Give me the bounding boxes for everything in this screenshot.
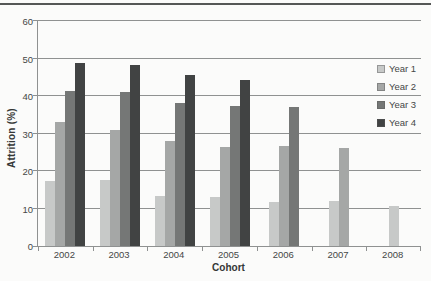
y-tick-label-30: 30 <box>3 129 33 140</box>
y-tick-label-60: 60 <box>3 16 33 27</box>
x-tick-label-2003: 2003 <box>92 249 147 260</box>
legend: Year 1Year 2Year 3Year 4 <box>377 63 416 135</box>
bar-2004-year-2 <box>165 141 175 246</box>
legend-item-year-1: Year 1 <box>377 63 416 74</box>
legend-item-year-3: Year 3 <box>377 99 416 110</box>
bar-2007-year-1 <box>329 201 339 246</box>
bar-group-2004 <box>147 21 202 246</box>
y-tick-label-20: 20 <box>3 166 33 177</box>
bar-2008-year-1 <box>389 206 399 247</box>
bar-2002-year-4 <box>75 63 85 246</box>
x-tick-label-2006: 2006 <box>256 249 311 260</box>
y-tick-label-40: 40 <box>3 91 33 102</box>
bar-group-2003 <box>93 21 148 246</box>
bar-2004-year-3 <box>175 103 185 246</box>
bar-2006-year-3 <box>289 107 299 246</box>
legend-item-year-4: Year 4 <box>377 117 416 128</box>
bar-2002-year-1 <box>45 181 55 246</box>
legend-swatch-icon <box>377 119 385 127</box>
x-tick-label-2008: 2008 <box>365 249 420 260</box>
legend-label: Year 3 <box>389 99 416 110</box>
plot-area: 0102030405060 <box>37 21 421 247</box>
bar-group-2007 <box>312 21 367 246</box>
x-tick-labels: 2002200320042005200620072008 <box>37 249 420 260</box>
bar-2004-year-1 <box>155 196 165 246</box>
legend-item-year-2: Year 2 <box>377 81 416 92</box>
bar-2007-year-2 <box>339 148 349 246</box>
legend-swatch-icon <box>377 101 385 109</box>
bar-2004-year-4 <box>185 75 195 246</box>
legend-swatch-icon <box>377 65 385 73</box>
legend-label: Year 4 <box>389 117 416 128</box>
legend-label: Year 2 <box>389 81 416 92</box>
bar-2003-year-4 <box>130 65 140 246</box>
bar-2006-year-2 <box>279 146 289 246</box>
bar-2005-year-4 <box>240 80 250 246</box>
bar-2003-year-1 <box>100 180 110 246</box>
bar-2002-year-3 <box>65 91 75 246</box>
bar-group-2005 <box>202 21 257 246</box>
bar-group-2006 <box>257 21 312 246</box>
y-tick-label-0: 0 <box>3 241 33 252</box>
x-tick-label-2005: 2005 <box>201 249 256 260</box>
page-top-rule <box>0 3 431 5</box>
x-tick-mark-7 <box>420 247 421 251</box>
bar-2005-year-3 <box>230 106 240 246</box>
y-tick-label-50: 50 <box>3 54 33 65</box>
bar-2003-year-3 <box>120 92 130 247</box>
bar-2005-year-1 <box>210 197 220 246</box>
x-axis-title: Cohort <box>37 262 420 273</box>
y-tick-label-10: 10 <box>3 204 33 215</box>
bar-2003-year-2 <box>110 130 120 246</box>
bar-2005-year-2 <box>220 147 230 246</box>
x-tick-label-2002: 2002 <box>37 249 92 260</box>
bar-groups-container <box>38 21 421 246</box>
bar-group-2002 <box>38 21 93 246</box>
x-tick-label-2004: 2004 <box>146 249 201 260</box>
bar-2002-year-2 <box>55 122 65 247</box>
legend-swatch-icon <box>377 83 385 91</box>
x-tick-label-2007: 2007 <box>311 249 366 260</box>
bar-2006-year-1 <box>269 202 279 246</box>
legend-label: Year 1 <box>389 63 416 74</box>
